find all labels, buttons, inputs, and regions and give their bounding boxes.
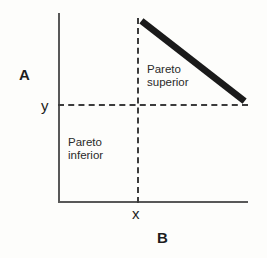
pareto-inferior-label: Pareto inferior [68,136,103,162]
pareto-inferior-line1: Pareto [68,136,103,149]
x-axis-line [58,201,248,203]
pareto-inferior-line2: inferior [68,149,103,162]
y-axis-line [58,13,60,203]
pareto-superior-label: Pareto superior [147,63,189,89]
pareto-diagram: A B y x Pareto superior Pareto inferior [0,0,267,258]
pareto-frontier-line [138,19,248,105]
x-axis-label: B [157,229,168,246]
x-tick-label: x [132,205,140,222]
y-axis-label: A [19,66,30,83]
y-tick-label: y [41,97,49,114]
pareto-superior-line1: Pareto [147,63,189,76]
pareto-superior-line2: superior [147,76,189,89]
